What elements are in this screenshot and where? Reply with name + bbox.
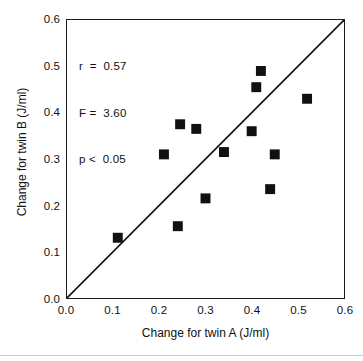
scatter-plot-figure: 0.00.10.20.30.40.50.6 Change for twin B … xyxy=(0,0,363,361)
x-axis-tick-label: 0.4 xyxy=(232,304,272,316)
data-point-marker xyxy=(270,149,280,159)
data-point-marker xyxy=(302,94,312,104)
page-bottom-rule xyxy=(0,355,363,356)
data-point-marker xyxy=(191,124,201,134)
y-axis-tick-label: 0.3 xyxy=(30,153,60,165)
annotation-f: F = 3.60 xyxy=(79,106,127,122)
y-axis-tick-label: 0.1 xyxy=(30,246,60,258)
data-point-marker xyxy=(201,193,211,203)
y-axis-tick-labels: 0.00.10.20.30.40.50.6 xyxy=(28,19,60,299)
data-point-marker xyxy=(265,184,275,194)
data-point-marker xyxy=(256,66,266,76)
data-point-marker xyxy=(247,126,257,136)
y-axis-title: Change for twin B (J/ml) xyxy=(15,12,29,292)
data-point-marker xyxy=(173,221,183,231)
y-axis-tick-label: 0.2 xyxy=(30,200,60,212)
x-axis-tick-label: 0.6 xyxy=(325,304,363,316)
x-axis-tick-label: 0.5 xyxy=(279,304,319,316)
annotation-p: p < 0.05 xyxy=(79,152,127,168)
y-axis-title-container: Change for twin B (J/ml) xyxy=(15,12,31,292)
x-axis-tick-labels: 0.00.10.20.30.40.50.6 xyxy=(66,304,345,320)
plot-area: r = 0.57 F = 3.60 p < 0.05 xyxy=(66,19,345,299)
y-axis-tick-label: 0.5 xyxy=(30,60,60,72)
x-axis-tick-label: 0.2 xyxy=(139,304,179,316)
y-axis-tick-label: 0.4 xyxy=(30,106,60,118)
statistics-annotation: r = 0.57 F = 3.60 p < 0.05 xyxy=(79,28,127,199)
x-axis-tick-label: 0.1 xyxy=(93,304,133,316)
data-point-marker xyxy=(159,149,169,159)
data-point-marker xyxy=(251,82,261,92)
annotation-r: r = 0.57 xyxy=(79,59,127,75)
x-axis-title: Change for twin A (J/ml) xyxy=(66,326,345,340)
data-point-marker xyxy=(219,147,229,157)
data-point-marker xyxy=(175,119,185,129)
x-axis-tick-label: 0.0 xyxy=(46,304,86,316)
data-point-markers xyxy=(113,66,312,243)
data-point-marker xyxy=(113,233,123,243)
y-axis-tick-label: 0.6 xyxy=(30,13,60,25)
x-axis-tick-label: 0.3 xyxy=(186,304,226,316)
